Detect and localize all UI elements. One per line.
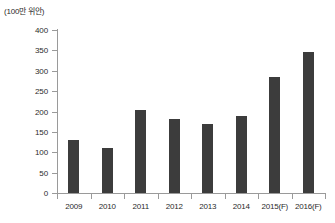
- y-axis-tick: [52, 112, 58, 113]
- bar: [135, 110, 146, 193]
- y-axis-tick-label: 150: [0, 127, 48, 136]
- x-axis-tick-label: 2014: [233, 202, 250, 211]
- y-axis-tick: [52, 173, 58, 174]
- y-axis-tick-label: 400: [0, 26, 48, 35]
- x-axis-tick: [325, 193, 326, 199]
- x-axis-tick: [124, 193, 125, 199]
- y-axis-tick: [52, 132, 58, 133]
- bar: [303, 52, 314, 193]
- x-axis-tick-label: 2011: [133, 202, 149, 211]
- x-axis-tick-label: 2016(F): [295, 202, 322, 211]
- bar: [68, 140, 79, 193]
- x-axis-tick: [258, 193, 259, 199]
- bar: [169, 119, 180, 193]
- x-axis-tick-label: 2009: [65, 202, 82, 211]
- y-axis-tick-label: 50: [0, 168, 48, 177]
- y-axis-tick-label: 100: [0, 148, 48, 157]
- y-axis-tick-label: 0: [0, 189, 48, 198]
- y-axis-unit-label: (100만 위안): [4, 5, 44, 16]
- bar: [202, 124, 213, 193]
- x-axis-tick: [292, 193, 293, 199]
- y-axis-tick: [52, 91, 58, 92]
- y-axis-tick-label: 350: [0, 46, 48, 55]
- x-axis-tick: [158, 193, 159, 199]
- x-axis-tick: [57, 193, 58, 199]
- y-axis-tick: [52, 152, 58, 153]
- bar: [236, 116, 247, 193]
- x-axis-tick: [191, 193, 192, 199]
- bar: [269, 77, 280, 193]
- x-axis-tick: [91, 193, 92, 199]
- x-axis-tick-label: 2013: [199, 202, 216, 211]
- y-axis-tick-label: 250: [0, 87, 48, 96]
- y-axis-tick: [52, 71, 58, 72]
- y-axis-tick-label: 200: [0, 107, 48, 116]
- x-axis-tick-label: 2010: [99, 202, 116, 211]
- x-axis-tick: [225, 193, 226, 199]
- bar-chart: (100만 위안) 400350300250200150100500 20092…: [0, 0, 335, 223]
- bar: [102, 148, 113, 193]
- y-axis-tick: [52, 30, 58, 31]
- y-axis-tick: [52, 50, 58, 51]
- x-axis-tick-label: 2015(F): [261, 202, 288, 211]
- x-axis-tick-label: 2012: [166, 202, 183, 211]
- y-axis-tick-label: 300: [0, 66, 48, 75]
